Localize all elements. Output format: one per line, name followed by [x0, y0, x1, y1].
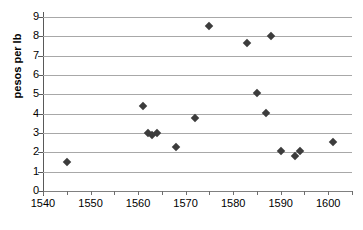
y-tick-mark-1 [38, 172, 43, 173]
y-tick-label-7: 7 [13, 50, 39, 61]
x-tick-mark-1575 [209, 191, 210, 195]
y-tick-label-3: 3 [13, 127, 39, 138]
y-axis-tick-labels: 0123456789 [9, 0, 39, 230]
y-tick-mark-2 [38, 152, 43, 153]
x-tick-mark-1605 [352, 191, 353, 195]
data-point [63, 158, 71, 166]
x-tick-mark-1600 [328, 191, 329, 195]
y-tick-mark-7 [38, 56, 43, 57]
y-tick-mark-8 [38, 36, 43, 37]
gridline-y-3 [43, 133, 352, 134]
y-tick-mark-9 [38, 17, 43, 18]
x-tick-mark-1540 [43, 191, 44, 195]
gridline-y-1 [43, 172, 352, 173]
data-point [329, 137, 337, 145]
y-tick-label-0: 0 [13, 185, 39, 196]
gridline-y-5 [43, 94, 352, 95]
y-tick-label-1: 1 [13, 166, 39, 177]
y-tick-label-2: 2 [13, 146, 39, 157]
x-tick-mark-1595 [304, 191, 305, 195]
x-tick-mark-1550 [91, 191, 92, 195]
gridline-y-6 [43, 75, 352, 76]
x-tick-label-1560: 1560 [118, 197, 158, 209]
gridline-y-4 [43, 114, 352, 115]
y-tick-mark-6 [38, 75, 43, 76]
gridline-y-7 [43, 56, 352, 57]
plot-area [43, 17, 352, 191]
x-tick-label-1600: 1600 [308, 197, 348, 209]
x-tick-label-1580: 1580 [213, 197, 253, 209]
x-tick-label-1550: 1550 [71, 197, 111, 209]
x-tick-mark-1590 [281, 191, 282, 195]
y-tick-mark-4 [38, 114, 43, 115]
scatter-chart: pesos per lb 0123456789 1540155015601570… [0, 0, 363, 230]
gridline-y-8 [43, 36, 352, 37]
data-point [172, 143, 180, 151]
data-point [139, 102, 147, 110]
data-point [253, 89, 261, 97]
x-tick-mark-1580 [233, 191, 234, 195]
x-tick-mark-1560 [138, 191, 139, 195]
data-point [267, 32, 275, 40]
gridline-y-0 [43, 191, 352, 192]
x-tick-mark-1555 [114, 191, 115, 195]
data-point [191, 114, 199, 122]
gridline-y-2 [43, 152, 352, 153]
x-tick-mark-1585 [257, 191, 258, 195]
y-tick-label-8: 8 [13, 30, 39, 41]
x-tick-mark-1565 [162, 191, 163, 195]
data-point [262, 109, 270, 117]
x-tick-label-1570: 1570 [166, 197, 206, 209]
y-tick-label-6: 6 [13, 69, 39, 80]
gridline-y-9 [43, 17, 352, 18]
data-point [205, 22, 213, 30]
y-tick-mark-3 [38, 133, 43, 134]
data-point [276, 147, 284, 155]
y-tick-mark-5 [38, 94, 43, 95]
data-point [243, 39, 251, 47]
x-tick-label-1540: 1540 [23, 197, 63, 209]
y-tick-label-5: 5 [13, 88, 39, 99]
x-tick-mark-1570 [186, 191, 187, 195]
x-tick-label-1590: 1590 [261, 197, 301, 209]
x-tick-mark-1545 [67, 191, 68, 195]
y-tick-label-4: 4 [13, 108, 39, 119]
y-tick-label-9: 9 [13, 11, 39, 22]
